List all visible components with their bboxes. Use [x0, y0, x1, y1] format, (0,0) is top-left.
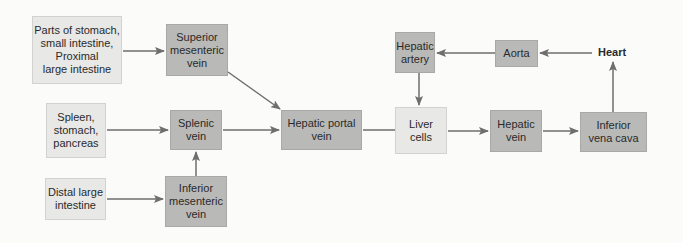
- node-liver-cells: Liver cells: [395, 107, 447, 154]
- node-inferior-mesenteric-vein: Inferior mesenteric vein: [165, 176, 227, 227]
- node-superior-mesenteric-vein: Superior mesenteric vein: [166, 24, 228, 76]
- node-spleen-stomach-pancreas: Spleen, stomach, pancreas: [46, 103, 106, 158]
- arrow-sup-mes-to-portal: [228, 72, 280, 109]
- node-hepatic-vein: Hepatic vein: [490, 110, 542, 152]
- node-parts-of-stomach: Parts of stomach, small intestine, Proxi…: [32, 16, 122, 84]
- node-aorta: Aorta: [495, 40, 538, 67]
- node-heart: Heart: [598, 46, 626, 58]
- node-distal-large-intestine: Distal large intestine: [45, 178, 106, 220]
- node-hepatic-portal-vein: Hepatic portal vein: [281, 110, 362, 150]
- node-inferior-vena-cava: Inferior vena cava: [580, 112, 647, 152]
- node-splenic-vein: Splenic vein: [170, 110, 222, 150]
- node-hepatic-artery: Hepatic artery: [395, 32, 435, 73]
